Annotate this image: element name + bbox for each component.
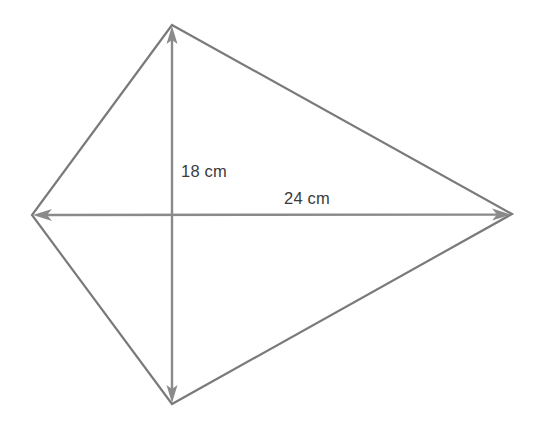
kite-figure-svg [0, 0, 538, 421]
width-dimension-label: 24 cm [281, 189, 333, 208]
horizontal-diagonal-group [33, 209, 511, 221]
height-dimension-label: 18 cm [178, 162, 230, 181]
kite-diagram: area of this kite. 18 cm 24 cm [0, 0, 538, 421]
